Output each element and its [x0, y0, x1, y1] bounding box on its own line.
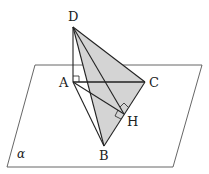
right-angle-mark-a: [73, 76, 79, 82]
geometry-diagram: D A C H B α: [0, 0, 209, 174]
label-c: C: [149, 75, 159, 90]
label-a: A: [58, 75, 69, 90]
label-b: B: [99, 148, 109, 163]
label-d: D: [68, 9, 78, 24]
label-h: H: [127, 114, 138, 129]
label-plane-alpha: α: [17, 147, 25, 161]
